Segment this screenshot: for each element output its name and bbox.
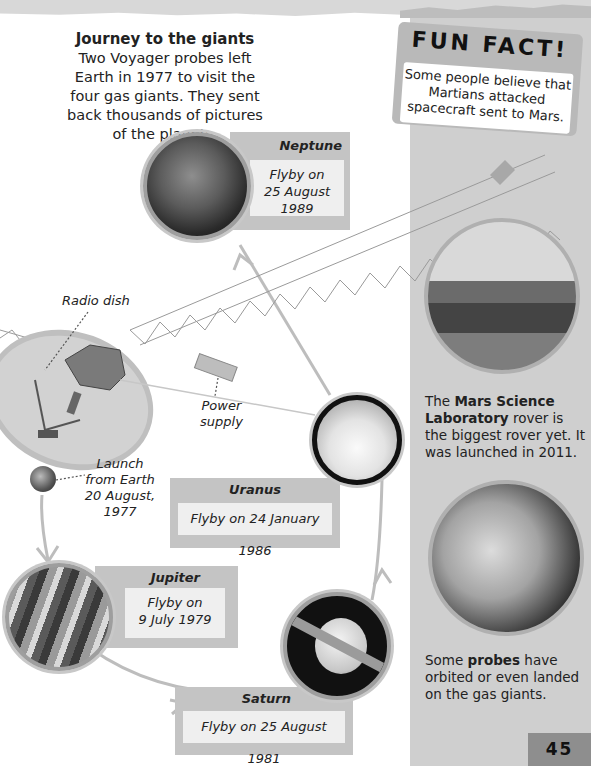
intro-text: Journey to the giants Two Voyager probes… <box>60 30 270 144</box>
jupiter-name: Jupiter <box>95 570 238 585</box>
probe-caption-pre: Some <box>425 652 468 668</box>
saturn-flyby: Flyby on 25 August 1981 <box>183 711 345 743</box>
rover-caption: The Mars Science Laboratory rover is the… <box>425 393 585 461</box>
saturn-image <box>283 592 391 700</box>
launch-line3: 20 August, 1977 <box>70 488 170 520</box>
radio-dish-label: Radio dish <box>62 293 130 309</box>
page-number: 45 <box>528 733 591 766</box>
neptune-flyby: Flyby on 25 August 1989 <box>250 160 344 216</box>
launch-line1: Launch <box>70 456 170 472</box>
neptune-image <box>143 132 251 240</box>
intro-body: Two Voyager probes left Earth in 1977 to… <box>60 49 270 144</box>
launch-line2: from Earth <box>70 472 170 488</box>
mars-rover-photo <box>424 218 580 374</box>
launch-label: Launch from Earth 20 August, 1977 <box>70 456 170 520</box>
jupiter-flyby-line1: Flyby on <box>125 594 225 611</box>
power-supply-unit <box>194 354 237 382</box>
jupiter-image <box>5 563 113 671</box>
power-supply-label: Power supply <box>200 398 243 430</box>
probe-caption-bold: probes <box>468 652 520 668</box>
jupiter-flyby-line2: 9 July 1979 <box>125 611 225 628</box>
jupiter-flyby: Flyby on 9 July 1979 <box>125 588 225 638</box>
uranus-image <box>312 395 402 485</box>
fun-fact-body: Some people believe that Martians attack… <box>400 62 574 134</box>
uranus-label-box: Uranus Flyby on 24 January 1986 <box>170 478 340 548</box>
uranus-flyby: Flyby on 24 January 1986 <box>178 503 332 535</box>
neptune-name: Neptune <box>230 138 350 153</box>
path-uranus-neptune <box>240 245 330 395</box>
intro-title: Journey to the giants <box>60 30 270 49</box>
rover-caption-pre: The <box>425 393 454 409</box>
path-earth-jupiter <box>42 495 48 560</box>
neptune-flyby-line1: Flyby on <box>250 166 344 183</box>
fun-fact-box: FUN FACT! Some people believe that Marti… <box>392 22 584 137</box>
probe-caption: Some probes have orbited or even landed … <box>425 652 585 703</box>
uranus-name: Uranus <box>170 482 340 497</box>
jupiter-label-box: Jupiter Flyby on 9 July 1979 <box>95 566 238 648</box>
probe-photo <box>428 480 584 636</box>
power-supply-line2: supply <box>200 414 243 430</box>
earth-icon <box>30 466 56 492</box>
neptune-flyby-line2: 25 August 1989 <box>250 183 344 217</box>
power-supply-line1: Power <box>200 398 243 414</box>
